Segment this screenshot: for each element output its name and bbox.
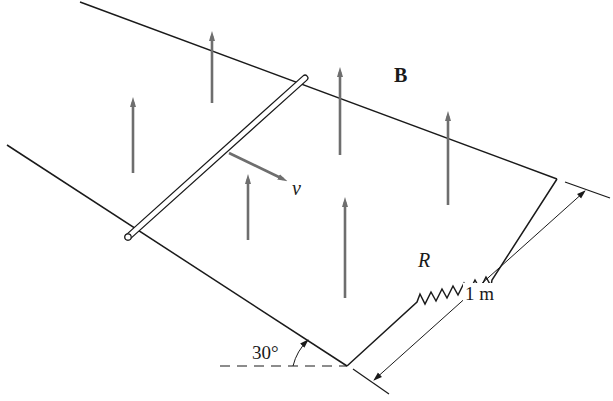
separation-label: 1 m <box>465 283 494 304</box>
dimension-extension-bottom <box>353 369 389 394</box>
velocity-label: v <box>292 177 301 199</box>
physics-diagram: B v R 1 m 30° <box>0 0 613 401</box>
resistor-wire <box>347 179 557 366</box>
velocity-arrow <box>229 153 283 179</box>
top-rail <box>80 2 557 179</box>
sliding-rod <box>125 78 305 240</box>
dimension-extension-top <box>565 182 610 198</box>
angle-arc <box>293 340 308 366</box>
field-label: B <box>394 64 407 86</box>
rod-end-cap <box>125 234 131 240</box>
angle-label: 30° <box>252 342 279 363</box>
resistor-label: R <box>417 249 430 271</box>
